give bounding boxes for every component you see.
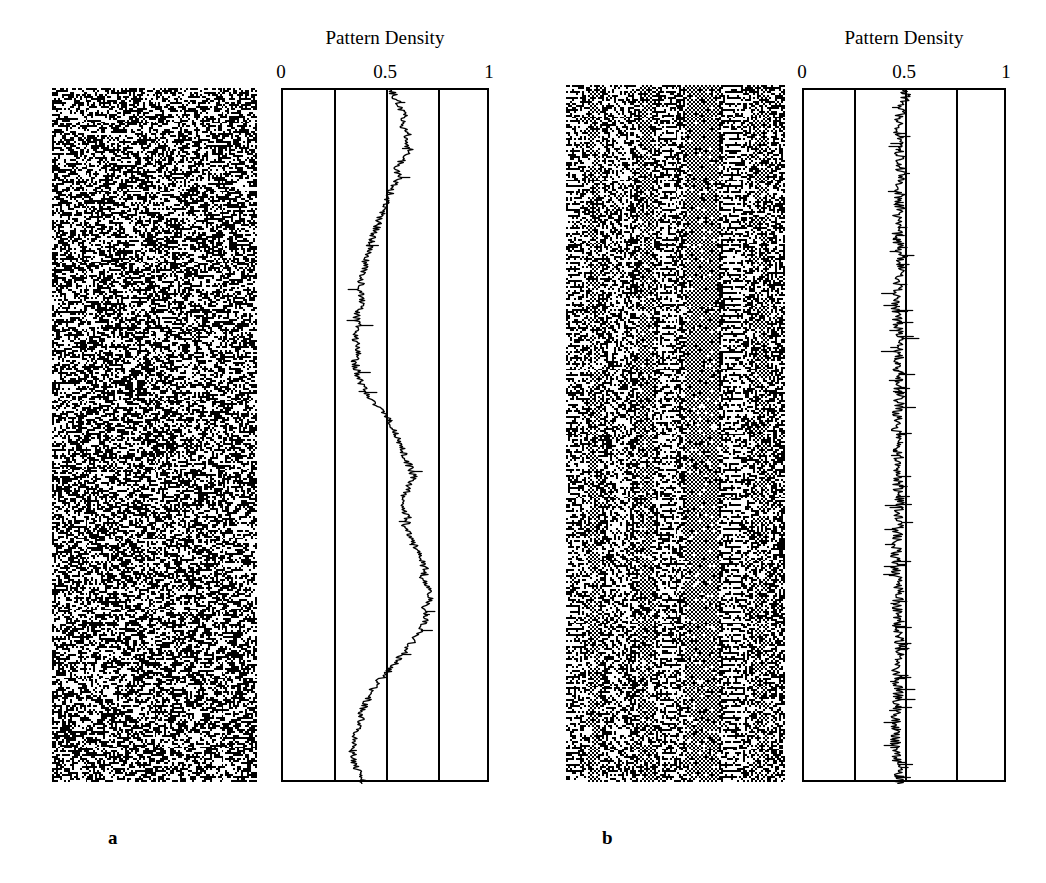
density-trace-b (804, 90, 1008, 784)
plot-a-frame (281, 88, 489, 782)
plot-a-title: Pattern Density (281, 28, 489, 47)
subfigure-label-b: b (602, 828, 613, 847)
density-trace-a (283, 90, 491, 784)
plot-b-tick-row: 0 0.5 1 (802, 62, 1006, 82)
plot-b-tick-1: 0.5 (892, 62, 916, 82)
plot-b-tick-0: 0 (797, 62, 807, 82)
plot-b-frame (802, 88, 1006, 782)
plot-a-tick-0: 0 (276, 62, 286, 82)
structured-pattern-b (566, 85, 785, 782)
random-pattern-a (52, 88, 257, 782)
plot-a-tick-1: 0.5 (373, 62, 397, 82)
density-plot-b: Pattern Density 0 0.5 1 (802, 0, 1006, 782)
density-plot-a: Pattern Density 0 0.5 1 (281, 0, 489, 782)
pattern-b-canvas (566, 85, 785, 782)
figure-root: Pattern Density 0 0.5 1 a Pattern Densit… (0, 0, 1046, 883)
plot-a-tick-2: 1 (484, 62, 494, 82)
subfigure-label-a: a (108, 828, 118, 847)
plot-b-title: Pattern Density (802, 28, 1006, 47)
pattern-a-canvas (52, 88, 257, 782)
plot-a-tick-row: 0 0.5 1 (281, 62, 489, 82)
plot-b-tick-2: 1 (1001, 62, 1011, 82)
